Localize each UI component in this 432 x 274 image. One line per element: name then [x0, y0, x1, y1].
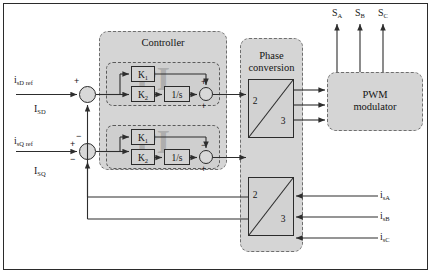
diagram-canvas: Controller PI K1 K2 1/s + + PI K1 K2 1/s…	[0, 0, 432, 274]
converter-diagonals	[0, 0, 432, 274]
